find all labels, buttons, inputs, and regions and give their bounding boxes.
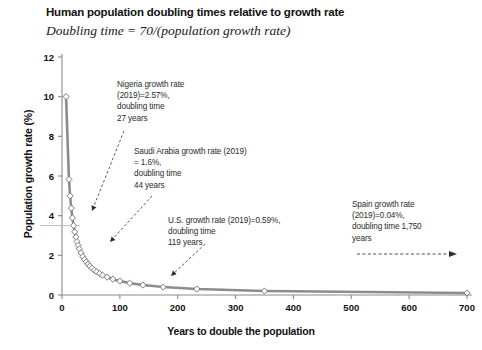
annotation-spain: Spain growth rate (2019)=0.04%, doubling… (352, 199, 422, 244)
y-axis-tick-label: 2 (49, 250, 54, 261)
leader-saudi-arabia-head (110, 236, 115, 242)
annotation-united-states: U.S. growth rate (2019)=0.59%, doubling … (168, 215, 280, 249)
data-point-marker (110, 276, 116, 282)
data-point-marker (261, 288, 267, 294)
data-point-marker (66, 176, 72, 182)
data-point-marker (69, 215, 75, 221)
x-axis-tick-label: 600 (401, 302, 417, 313)
leader-nigeria (92, 131, 124, 211)
leader-united-states (171, 244, 205, 276)
data-line (66, 97, 467, 293)
y-axis-tick-label: 0 (49, 290, 54, 301)
y-axis-tick-label: 12 (43, 52, 54, 63)
leader-spain-head (449, 251, 457, 257)
x-axis-tick-label: 100 (112, 302, 128, 313)
x-axis-tick-label: 300 (228, 302, 244, 313)
data-point-marker (63, 94, 69, 100)
y-axis-tick-label: 4 (49, 210, 55, 221)
x-axis-tick-label: 200 (170, 302, 186, 313)
leader-nigeria-head (92, 205, 97, 211)
y-axis-tick-label: 6 (49, 171, 54, 182)
data-point-marker (194, 286, 200, 292)
leader-saudi-arabia (110, 196, 152, 242)
x-axis-tick-label: 500 (343, 302, 359, 313)
y-axis-tick-label: 8 (49, 131, 54, 142)
data-point-marker (72, 229, 78, 235)
x-axis-tick-label: 700 (459, 302, 475, 313)
y-axis-title: Population growth rate (%) (22, 84, 34, 264)
data-point-marker (160, 284, 166, 290)
x-axis-tick-label: 0 (59, 302, 64, 313)
data-point-marker (127, 280, 133, 286)
y-axis-tick-label: 10 (43, 91, 54, 102)
data-point-marker (117, 278, 123, 284)
annotation-nigeria: Nigeria growth rate (2019)=2.57%, doubli… (117, 79, 184, 124)
data-point-marker (67, 193, 73, 199)
x-axis-tick-label: 400 (285, 302, 301, 313)
data-point-marker (70, 222, 76, 228)
annotation-saudi-arabia: Saudi Arabia growth rate (2019) = 1.6%, … (134, 146, 247, 191)
x-axis-title: Years to double the population (0, 325, 482, 337)
data-point-marker (68, 205, 74, 211)
chart-container: Human population doubling times relative… (0, 0, 482, 350)
data-point-marker (140, 282, 146, 288)
